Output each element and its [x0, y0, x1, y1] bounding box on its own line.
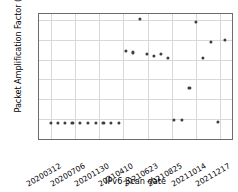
data-point [79, 122, 82, 125]
y-gridline [39, 60, 232, 61]
y-gridline [39, 119, 232, 120]
x-tick-mark [220, 139, 221, 140]
data-point [152, 54, 155, 57]
scatter-chart-figure: Packet Amplification Factor (PAF) 010203… [0, 0, 238, 192]
x-tick-mark [148, 139, 149, 140]
y-tick-mark [38, 139, 39, 140]
x-gridline [75, 14, 76, 139]
data-point [172, 118, 175, 121]
x-tick-mark [123, 139, 124, 140]
data-point [216, 120, 219, 123]
x-gridline [123, 14, 124, 139]
y-tick-mark [38, 79, 39, 80]
data-point [49, 122, 52, 125]
plot-area: 0102030405060 [38, 13, 233, 140]
data-point [102, 122, 105, 125]
data-point [125, 49, 128, 52]
y-gridline [39, 99, 232, 100]
x-gridline [99, 14, 100, 139]
data-point [180, 118, 183, 121]
data-point [188, 86, 191, 89]
x-gridline [220, 14, 221, 139]
data-point [94, 122, 97, 125]
data-point [64, 122, 67, 125]
y-gridline [39, 20, 232, 21]
y-tick-mark [38, 99, 39, 100]
x-gridline [148, 14, 149, 139]
x-tick-mark [172, 139, 173, 140]
x-gridline [196, 14, 197, 139]
data-point [195, 20, 198, 23]
y-gridline [39, 40, 232, 41]
y-gridline [39, 79, 232, 80]
x-gridline [51, 14, 52, 139]
data-point [71, 122, 74, 125]
y-tick-mark [38, 59, 39, 60]
y-axis-label: Packet Amplification Factor (PAF) [13, 0, 23, 117]
data-point [86, 122, 89, 125]
data-point [117, 122, 120, 125]
x-tick-mark [196, 139, 197, 140]
data-point [210, 41, 213, 44]
data-point [159, 52, 162, 55]
x-tick-mark [51, 139, 52, 140]
data-point [131, 51, 134, 54]
y-tick-mark [38, 19, 39, 20]
y-tick-mark [38, 119, 39, 120]
x-tick-mark [75, 139, 76, 140]
data-point [56, 122, 59, 125]
data-point [110, 122, 113, 125]
x-tick-mark [99, 139, 100, 140]
y-tick-mark [38, 39, 39, 40]
